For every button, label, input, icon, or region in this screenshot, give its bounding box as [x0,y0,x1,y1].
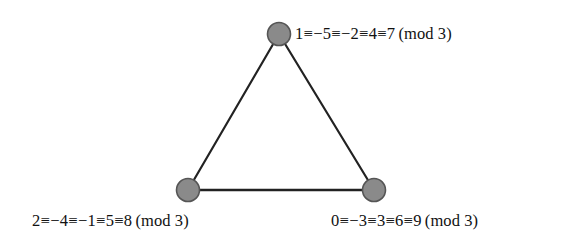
node-label-residue-2: 2≡−4≡−1≡5≡8(mod 3) [32,213,189,230]
node-label-residue-2-expression: 2≡−4≡−1≡5≡8 [32,211,132,230]
node-label-residue-1-expression: 1≡−5≡−2≡4≡7 [295,24,395,43]
residue-class-triangle-figure: 1≡−5≡−2≡4≡7(mod 3) 2≡−4≡−1≡5≡8(mod 3) 0≡… [0,0,562,247]
graph-nodes [177,23,386,202]
node-label-residue-1-modulus: (mod 3) [395,24,451,43]
node-residue-2[interactable] [177,179,200,202]
graph-edges [188,34,374,190]
edge-left [188,34,279,190]
node-label-residue-2-modulus: (mod 3) [132,211,188,230]
edge-right [279,34,374,190]
node-residue-1[interactable] [268,23,291,46]
node-label-residue-0: 0≡−3≡3≡6≡9(mod 3) [331,213,478,230]
node-residue-0[interactable] [363,179,386,202]
node-label-residue-1: 1≡−5≡−2≡4≡7(mod 3) [295,26,452,43]
node-label-residue-0-modulus: (mod 3) [422,211,478,230]
node-label-residue-0-expression: 0≡−3≡3≡6≡9 [331,211,422,230]
graph-canvas [0,0,562,247]
